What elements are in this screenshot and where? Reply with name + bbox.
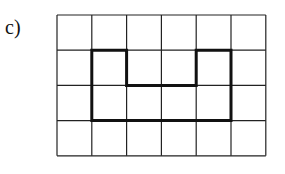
grid-figure <box>0 0 285 174</box>
